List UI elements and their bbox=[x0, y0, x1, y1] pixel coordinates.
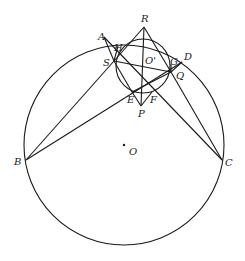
center-dot-o bbox=[123, 144, 125, 146]
label-s: S bbox=[103, 57, 110, 68]
label-p: P bbox=[137, 108, 145, 119]
label-f: F bbox=[149, 94, 158, 105]
line-ca bbox=[104, 37, 222, 160]
line-se bbox=[114, 61, 132, 92]
line-bs bbox=[26, 61, 114, 160]
label-g: G bbox=[170, 56, 178, 67]
line-bd bbox=[26, 62, 182, 160]
label-o: O bbox=[129, 146, 137, 157]
label-d: D bbox=[183, 51, 192, 62]
label-h: H bbox=[113, 42, 123, 53]
label-e: E bbox=[126, 94, 135, 105]
label-c: C bbox=[225, 157, 233, 168]
label-a: A bbox=[97, 31, 105, 42]
geometry-diagram: R A H D S O' G Q E F P O B C bbox=[0, 0, 245, 261]
label-r: R bbox=[140, 13, 149, 24]
line-cq bbox=[171, 72, 222, 160]
label-b: B bbox=[13, 156, 21, 167]
label-o-prime: O' bbox=[145, 55, 156, 66]
label-q: Q bbox=[176, 70, 184, 81]
